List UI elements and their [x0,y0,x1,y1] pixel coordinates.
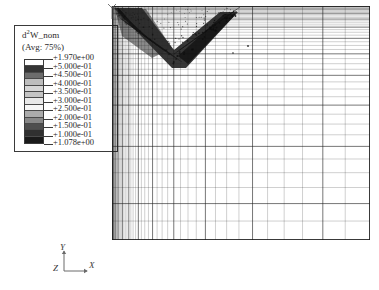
triad-label-x: X [89,260,95,270]
legend-tick [44,85,53,86]
mesh-origin-axis-icon [104,2,120,20]
legend-tick [44,102,53,103]
legend-tick [44,68,53,69]
legend-swatch [25,137,43,143]
legend-tick [44,93,53,94]
legend-value-list: +1.970e+00 +5.000e-01 +4.500e-01 +4.000e… [53,53,115,147]
legend-tick [44,136,53,137]
legend-tick [44,110,53,111]
legend-field-title: d2W_nom [22,30,59,40]
legend-tick-column [44,59,53,144]
legend-tick [44,144,53,145]
figure-root: d2W_nom (Avg: 75%) [0,0,379,290]
triad-label-z: Z [53,263,58,273]
legend-tick [44,127,53,128]
contour-band-overlay [112,6,370,240]
legend-title-rest: W_nom [30,30,60,40]
legend-color-bar [24,59,44,144]
contour-legend: d2W_nom (Avg: 75%) [14,25,118,152]
legend-average-label: (Avg: 75%) [22,42,64,52]
coordinate-triad: Y X Z [54,243,106,283]
triad-label-y: Y [60,242,65,252]
legend-tick [44,59,53,60]
legend-tick [44,76,53,77]
legend-tick [44,119,53,120]
legend-value: +1.078e+00 [53,138,115,147]
mesh-plot [112,6,370,240]
